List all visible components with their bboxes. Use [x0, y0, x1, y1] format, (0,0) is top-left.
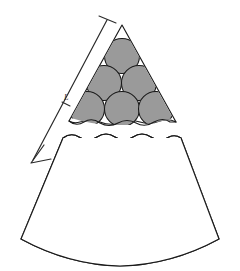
arrow-head	[31, 145, 51, 163]
particle-core	[12, 219, 22, 229]
upper-wedge-section	[69, 25, 176, 127]
upper-particle-group	[70, 39, 174, 127]
wedge-particle-diagram: L	[0, 0, 240, 271]
arrow-start-tick	[99, 16, 116, 23]
figure-root: L	[0, 0, 240, 271]
lower-wedge-edge-stroke	[21, 138, 219, 266]
arrow-label: L	[63, 93, 69, 102]
